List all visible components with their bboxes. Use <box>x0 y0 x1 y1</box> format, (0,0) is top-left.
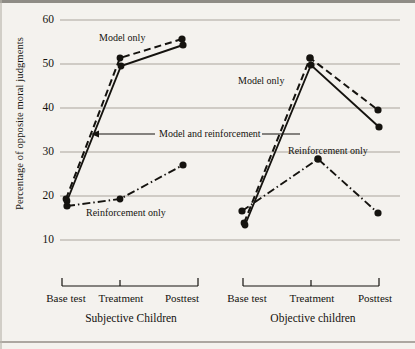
x-tick-objective-posttest: Posttest <box>345 292 405 304</box>
point-model-reinf-objective-posttest <box>375 123 382 130</box>
markers-subjective <box>63 35 187 209</box>
x-tick-subjective-posttest: Posttest <box>152 292 212 304</box>
annotation-reinforcement-only-objective: Reinforcement only <box>288 145 368 156</box>
x-tick-objective-base-test: Base test <box>217 292 277 304</box>
panel-label-objective-children: Objective children <box>238 312 388 324</box>
point-model-reinf-subjective-treatment <box>118 63 125 70</box>
point-model-reinf-objective-base <box>242 222 249 229</box>
point-reinf-only-subjective-posttest <box>179 161 186 168</box>
annotation-reinforcement-only-subjective: Reinforcement only <box>86 207 166 218</box>
x-tick-objective-treatment: Treatment <box>279 292 345 304</box>
series-reinforcement-only-subjective <box>67 165 183 206</box>
point-model-reinf-objective-treatment <box>307 61 314 68</box>
x-axis-subjective <box>62 278 198 286</box>
series-model-and-reinforcement-subjective <box>67 45 183 201</box>
point-model-reinf-subjective-posttest <box>179 41 186 48</box>
panel-label-subjective-children: Subjective Children <box>56 312 206 324</box>
figure-container: Percentage of opposite moral judgments 6… <box>0 0 415 349</box>
category-axes <box>62 278 379 286</box>
point-reinf-only-objective-treatment <box>314 155 322 163</box>
point-model-only-subjective-treatment <box>117 55 124 62</box>
series-reinforcement-only-objective <box>242 159 378 213</box>
annotation-model-only-objective: Model only <box>238 75 284 86</box>
point-model-only-objective-treatment <box>306 54 314 62</box>
x-axis-objective <box>243 278 379 286</box>
point-reinf-only-subjective-treatment <box>117 196 124 203</box>
annotation-model-and-reinforcement: Model and reinforcement <box>159 128 261 139</box>
point-model-only-subjective-posttest <box>178 35 185 42</box>
annotation-model-only-subjective: Model only <box>99 32 145 43</box>
point-reinf-only-subjective-base <box>63 202 70 209</box>
point-model-only-objective-posttest <box>374 106 381 113</box>
x-tick-subjective-base-test: Base test <box>36 292 96 304</box>
x-tick-subjective-treatment: Treatment <box>88 292 154 304</box>
point-reinf-only-objective-base <box>238 207 245 214</box>
point-reinf-only-objective-posttest <box>374 209 381 216</box>
